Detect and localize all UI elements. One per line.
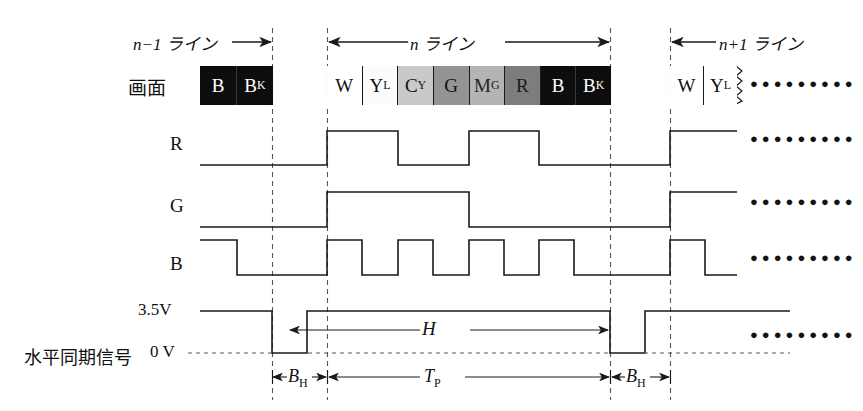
colorbar-cell-label: B [212, 75, 225, 97]
current-line-cell-b: B [541, 66, 577, 105]
span-label-current-line: n ライン [410, 30, 474, 55]
colorbar-cell-label: R [516, 75, 529, 97]
measure-label-BH-right-sub: H [637, 376, 646, 390]
prev-line-cell-bk: BK [237, 66, 273, 105]
colorbar-cell-label: G [444, 75, 458, 97]
continuation-dots-screen: ●●●●●●●●● [750, 76, 857, 92]
current-line-cell-cy: CY [398, 66, 434, 105]
colorbar-cell-label: M [474, 75, 491, 97]
continuation-dots-R: ●●●●●●●●● [750, 131, 857, 147]
waveform-G [200, 192, 737, 227]
colorbar-cell-sublabel: L [383, 78, 390, 93]
colorbar-cell-label: W [335, 75, 353, 97]
row-label-G: G [170, 195, 184, 217]
current-line-cell-bk: BK [576, 66, 611, 105]
screen-row-label: 画面 [128, 73, 166, 100]
colorbar-cell-label: B [552, 75, 565, 97]
span-label-next-line: n+1 ライン [719, 30, 803, 55]
colorbar-cell-label: B [583, 75, 596, 97]
span-label-prev-line: n−1 ライン [133, 30, 217, 55]
waveform-hsync [200, 311, 790, 353]
row-label-R: R [170, 133, 183, 155]
measure-label-H: H [422, 318, 436, 340]
colorbar-cell-label: Y [710, 75, 724, 97]
voltage-high-label: 3.5V [138, 300, 172, 320]
colorbar-cell-label: Y [369, 75, 383, 97]
measure-label-TP-main: T [424, 366, 434, 386]
colorbar-cell-sublabel: L [724, 78, 731, 93]
colorbar-cell-label: W [678, 75, 696, 97]
next-line-cell-yl: YL [704, 66, 737, 105]
next-line-cell-w: W [670, 66, 704, 105]
measure-label-BH-right-main: B [626, 366, 637, 386]
measure-label-BH-left-sub: H [299, 376, 308, 390]
current-line-cell-yl: YL [363, 66, 399, 105]
colorbar-cell-label: B [244, 75, 257, 97]
colorbar-next-line: WYL [670, 66, 737, 105]
diagram-canvas: BBK WYLCYGMGRBBK WYL 画面 R G B 3.5V 水平同期信… [0, 0, 863, 411]
measure-label-BH-right: BH [626, 366, 646, 391]
prev-line-cell-b: B [200, 66, 237, 105]
colorbar-cell-sublabel: Y [418, 78, 427, 93]
colorbar-cell-label: C [405, 75, 418, 97]
continuation-dots-G: ●●●●●●●●● [750, 194, 857, 210]
current-line-cell-g: G [434, 66, 470, 105]
colorbar-cell-sublabel: G [491, 78, 500, 93]
row-label-B: B [170, 253, 183, 275]
continuation-dots-hsync: ●●●●●●●●● [750, 327, 857, 343]
measure-label-BH-left: BH [288, 366, 308, 391]
current-line-cell-w: W [327, 66, 363, 105]
waveform-B [200, 240, 737, 275]
voltage-low-label: 0 V [150, 342, 175, 362]
continuation-dots-B: ●●●●●●●●● [750, 250, 857, 266]
sync-row-label: 水平同期信号 [24, 343, 132, 369]
measure-label-H-text: H [422, 318, 436, 339]
colorbar-cell-sublabel: K [257, 78, 266, 93]
current-line-cell-mg: MG [470, 66, 506, 105]
measure-label-BH-left-main: B [288, 366, 299, 386]
colorbar-current-line: WYLCYGMGRBBK [327, 66, 611, 105]
waveform-R [200, 131, 737, 165]
current-line-cell-r: R [505, 66, 541, 105]
colorbar-prev-line: BBK [200, 66, 273, 105]
measure-label-TP: TP [424, 366, 441, 391]
measure-label-TP-sub: P [434, 376, 441, 390]
colorbar-cell-sublabel: K [596, 78, 605, 93]
